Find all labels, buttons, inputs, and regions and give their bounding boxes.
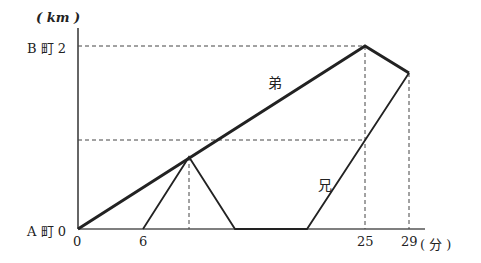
a-town-label: A 町 0 — [27, 221, 66, 240]
series-younger-brother — [78, 46, 409, 229]
x-unit-label: ( 分 ) — [420, 234, 451, 253]
x-tick-25: 25 — [357, 234, 374, 249]
series-label-older: 兄 — [318, 174, 332, 194]
series-older-brother — [143, 73, 409, 229]
series-label-younger: 弟 — [268, 72, 282, 92]
x-tick-29: 29 — [401, 234, 418, 249]
chart-plot — [0, 0, 481, 263]
y-unit-label: ( km ) — [36, 10, 80, 25]
x-tick-6: 6 — [139, 234, 147, 249]
reference-lines — [78, 46, 409, 229]
x-tick-0: 0 — [73, 234, 81, 249]
b-town-label: B 町 2 — [27, 38, 66, 57]
